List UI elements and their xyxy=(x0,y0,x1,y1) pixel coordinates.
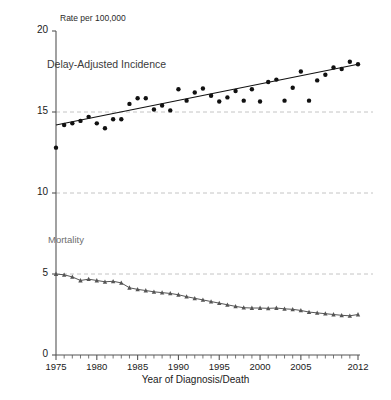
x-axis-title: Year of Diagnosis/Death xyxy=(0,374,391,385)
x-tick-label: 2005 xyxy=(281,361,321,372)
incidence-series-label: Delay-Adjusted Incidence xyxy=(47,58,166,70)
mortality-series-label: Mortality xyxy=(48,234,84,245)
y-tick-label: 5 xyxy=(22,267,48,278)
y-tick-label: 10 xyxy=(22,186,48,197)
x-tick-label: 2000 xyxy=(240,361,280,372)
x-tick-label: 2012 xyxy=(338,361,378,372)
x-tick-label: 1995 xyxy=(199,361,239,372)
mortality-line xyxy=(56,274,358,316)
gridlines xyxy=(56,112,373,274)
mortality-data-points xyxy=(54,272,360,318)
chart-figure: Rate per 100,000 Delay-Adjusted Incidenc… xyxy=(0,0,391,400)
x-tick-label: 1990 xyxy=(158,361,198,372)
x-tick-label: 1975 xyxy=(36,361,76,372)
y-tick-label: 20 xyxy=(22,24,48,35)
y-axis-title: Rate per 100,000 xyxy=(60,13,126,23)
y-tick-label: 15 xyxy=(22,105,48,116)
incidence-trend-line xyxy=(56,64,358,125)
x-axis-ticks xyxy=(56,355,358,360)
x-tick-label: 1980 xyxy=(77,361,117,372)
y-tick-label: 0 xyxy=(22,348,48,359)
y-axis-ticks xyxy=(52,31,56,355)
x-tick-label: 1985 xyxy=(118,361,158,372)
